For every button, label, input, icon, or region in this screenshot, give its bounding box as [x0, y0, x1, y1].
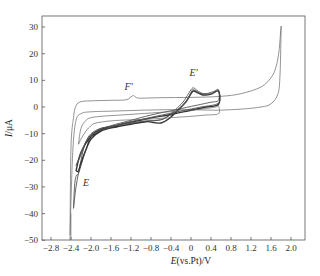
cv-curve [70, 26, 281, 240]
peak-label: F' [123, 81, 133, 92]
peak-label: E' [188, 67, 198, 78]
x-tick-label: −1.6 [103, 243, 120, 253]
x-tick-label: 0 [189, 243, 194, 253]
y-tick-label: −20 [24, 155, 39, 165]
y-tick-label: 0 [34, 102, 39, 112]
y-tick-label: −30 [24, 182, 39, 192]
y-tick-label: −40 [24, 209, 39, 219]
x-tick-label: 2.0 [285, 243, 297, 253]
x-tick-label: −2.8 [43, 243, 60, 253]
peak-annotations: F'E'E [82, 67, 199, 187]
x-axis-label: E(vs.Pt)/V [170, 256, 212, 267]
x-tick-label: −0.4 [163, 243, 180, 253]
x-tick-label: 1.6 [265, 243, 277, 253]
y-tick-label: 30 [29, 22, 39, 32]
y-tick-label: 10 [29, 75, 39, 85]
cv-curve [76, 90, 220, 166]
x-tick-label: −1.2 [123, 243, 139, 253]
x-tick-label: −2.4 [63, 243, 80, 253]
x-tick-label: 0.8 [225, 243, 237, 253]
x-axis-ticks: −2.8−2.4−2.0−1.6−1.2−0.8−0.400.40.81.21.… [43, 214, 297, 253]
x-tick-label: −2.0 [83, 243, 100, 253]
x-tick-label: −0.8 [143, 243, 160, 253]
x-tick-label: 0.4 [205, 243, 217, 253]
x-tick-label: 1.2 [245, 243, 256, 253]
y-tick-label: −50 [24, 235, 39, 245]
y-tick-label: −10 [24, 129, 39, 139]
y-axis-label: I/μA [4, 119, 14, 138]
data-series [70, 26, 281, 240]
peak-label: E [82, 177, 89, 188]
cyclic-voltammogram-chart: −2.8−2.4−2.0−1.6−1.2−0.8−0.400.40.81.21.… [0, 0, 320, 276]
y-tick-label: 20 [29, 49, 39, 59]
cv-curve [74, 88, 220, 209]
